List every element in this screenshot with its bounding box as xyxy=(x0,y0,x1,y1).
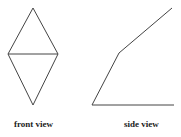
front-view-rhombus xyxy=(8,8,58,105)
front-view-figure xyxy=(8,8,58,105)
side-view-figure xyxy=(92,8,174,105)
front-view-label: front view xyxy=(14,119,53,129)
side-view-bent-line xyxy=(92,8,172,105)
side-view-label: side view xyxy=(124,119,159,129)
diagram-canvas xyxy=(0,0,181,137)
